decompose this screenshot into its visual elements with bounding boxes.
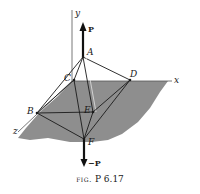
- point-e-label: E: [84, 106, 91, 115]
- force-negp-label: −P: [88, 159, 101, 167]
- y-axis-label: y: [75, 9, 80, 18]
- point-c-label: C: [64, 74, 71, 83]
- force-p-label: P: [88, 25, 94, 33]
- figure-caption-prefix: fig.: [76, 175, 92, 184]
- point-f-label: F: [88, 138, 94, 147]
- point-a-label: A: [87, 48, 94, 57]
- point-d-label: D: [130, 70, 137, 79]
- x-axis-label: x: [174, 76, 179, 85]
- figure-caption-number: P 6.17: [95, 174, 124, 184]
- figure-caption: fig. P 6.17: [0, 174, 200, 184]
- point-b-label: B: [27, 107, 34, 116]
- force-p-arrowhead: [80, 22, 87, 31]
- force-negp-arrowhead: [81, 159, 88, 167]
- z-axis-label: z: [13, 127, 18, 136]
